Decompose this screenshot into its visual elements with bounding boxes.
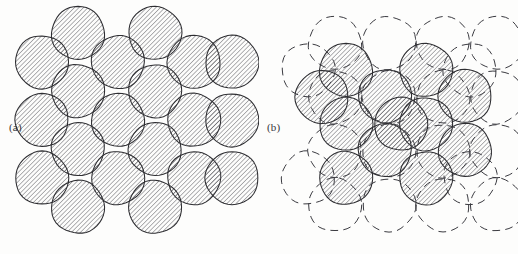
- panel-b-diagram: [259, 0, 518, 254]
- panel-a-diagram: [0, 0, 259, 254]
- panel-b: (b): [259, 0, 518, 254]
- figure-container: (a) (b): [0, 0, 518, 254]
- panel-a: (a): [0, 0, 259, 254]
